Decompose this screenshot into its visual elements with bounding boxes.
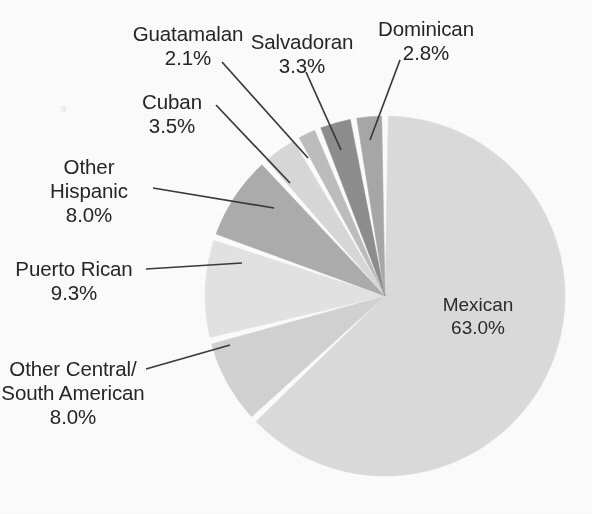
slice-label-cuban-pct: 3.5% <box>126 114 218 138</box>
slice-label-guatamalan: Guatamalan 2.1% <box>118 22 258 70</box>
slice-label-other-hispanic: Other Hispanic 8.0% <box>30 155 148 226</box>
slice-label-dominican-name: Dominican <box>378 17 474 40</box>
slice-label-salvadoran: Salvadoran 3.3% <box>241 30 363 78</box>
slice-label-other-central-south-pct: 8.0% <box>0 405 146 429</box>
scan-artifact-speck <box>61 106 66 112</box>
slice-label-salvadoran-name: Salvadoran <box>251 30 354 53</box>
pie-chart-figure: Guatamalan 2.1% Salvadoran 3.3% Dominica… <box>0 0 592 514</box>
slice-label-other-central-south: Other Central/ South American 8.0% <box>0 357 146 428</box>
slice-label-guatamalan-pct: 2.1% <box>118 46 258 70</box>
slice-label-puerto-rican-name: Puerto Rican <box>15 257 132 280</box>
slice-label-mexican-name: Mexican <box>443 294 514 315</box>
slice-label-mexican: Mexican 63.0% <box>418 294 538 340</box>
slice-label-other-hispanic-line2: Hispanic <box>30 179 148 203</box>
slice-label-dominican-pct: 2.8% <box>364 41 488 65</box>
slice-label-other-central-south-line1: Other Central/ <box>0 357 146 381</box>
slice-label-puerto-rican: Puerto Rican 9.3% <box>8 257 140 305</box>
slice-label-other-central-south-line2: South American <box>0 381 146 405</box>
slice-label-other-hispanic-line1: Other <box>30 155 148 179</box>
slice-label-cuban-name: Cuban <box>142 90 202 113</box>
slice-label-puerto-rican-pct: 9.3% <box>8 281 140 305</box>
leader-line-cuban <box>216 105 290 183</box>
slice-label-guatamalan-name: Guatamalan <box>133 22 244 45</box>
slice-label-salvadoran-pct: 3.3% <box>241 54 363 78</box>
slice-label-other-hispanic-pct: 8.0% <box>30 203 148 227</box>
slice-label-mexican-pct: 63.0% <box>451 317 505 338</box>
slice-label-dominican: Dominican 2.8% <box>364 17 488 65</box>
slice-label-cuban: Cuban 3.5% <box>126 90 218 138</box>
